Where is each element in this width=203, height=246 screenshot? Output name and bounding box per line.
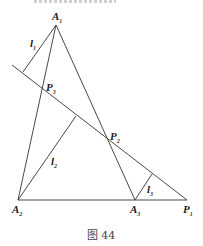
geometry-figure: A1 A2 A3 P1 P2 P3 l1 l2 l3 图 44	[0, 0, 203, 246]
triangle-diagram: A1 A2 A3 P1 P2 P3 l1 l2 l3 图 44	[0, 0, 203, 246]
transversal-line	[12, 65, 187, 200]
label-a2: A2	[11, 203, 22, 217]
label-p1: P1	[183, 203, 193, 217]
side-a1-a3	[56, 25, 135, 200]
label-a1: A1	[51, 10, 62, 24]
figure-caption: 图 44	[87, 229, 116, 242]
label-l1: l1	[30, 37, 36, 51]
label-l2: l2	[51, 155, 57, 169]
side-a1-a2	[18, 25, 56, 200]
label-p3: P3	[46, 81, 56, 95]
label-l3: l3	[147, 183, 153, 197]
label-p2: P2	[110, 130, 120, 144]
label-a3: A3	[129, 203, 140, 217]
